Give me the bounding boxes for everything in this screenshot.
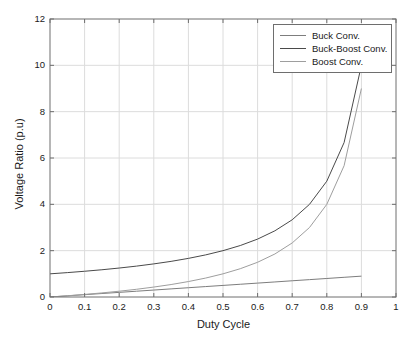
x-tick-label: 1 [381,301,411,312]
y-tick-label: 8 [23,106,45,117]
legend-line-swatch [280,61,306,62]
chart-figure: 00.10.20.30.40.50.60.70.80.91 024681012 … [0,0,417,340]
x-tick-label: 0.9 [346,301,376,312]
x-tick-label: 0.7 [277,301,307,312]
legend-item-label: Boost Conv. [312,55,363,68]
x-tick-label: 0.4 [173,301,203,312]
legend-item-1[interactable]: Buck-Boost Conv. [276,42,389,55]
y-tick-label: 6 [23,152,45,163]
legend-item-label: Buck-Boost Conv. [312,42,387,55]
legend-line-swatch [280,48,306,49]
y-tick-label: 10 [23,59,45,70]
legend-item-0[interactable]: Buck Conv. [276,29,389,42]
y-axis-label: Voltage Ratio (p.u) [13,99,25,229]
legend-item-label: Buck Conv. [312,29,360,42]
x-tick-label: 0.5 [208,301,238,312]
legend-item-2[interactable]: Boost Conv. [276,55,389,68]
legend-line-swatch [280,35,306,36]
chart-legend: Buck Conv.Buck-Boost Conv.Boost Conv. [273,24,392,73]
x-tick-label: 0.3 [139,301,169,312]
x-tick-label: 0.8 [312,301,342,312]
x-tick-label: 0.2 [104,301,134,312]
x-tick-label: 0.6 [243,301,273,312]
x-tick-label: 0.1 [70,301,100,312]
y-tick-label: 0 [23,291,45,302]
y-tick-label: 4 [23,198,45,209]
y-tick-label: 2 [23,245,45,256]
y-tick-label: 12 [23,13,45,24]
x-axis-label: Duty Cycle [50,318,397,330]
x-tick-label: 0 [35,301,65,312]
